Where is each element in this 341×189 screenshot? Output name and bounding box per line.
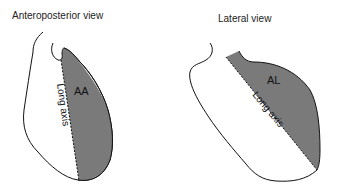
region-label-aa: AA (74, 85, 89, 97)
panel-title-lateral: Lateral view (218, 13, 272, 24)
lateral-panel: Lateral view AL Long axis (190, 13, 320, 181)
panel-title-anteroposterior: Anteroposterior view (12, 10, 104, 21)
region-label-al: AL (267, 74, 280, 86)
diagram-canvas: Anteroposterior view AA Long axis Latera… (0, 0, 341, 189)
anteroposterior-panel: Anteroposterior view AA Long axis (12, 10, 112, 181)
